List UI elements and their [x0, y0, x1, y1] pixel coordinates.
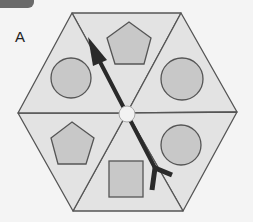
square-bottom: [109, 161, 143, 197]
center-pivot: [119, 106, 135, 122]
hexagon-diagram: [0, 0, 253, 222]
circle-upper-left: [51, 58, 91, 98]
circle-lower-right: [161, 125, 201, 165]
circle-upper-right: [161, 58, 203, 100]
